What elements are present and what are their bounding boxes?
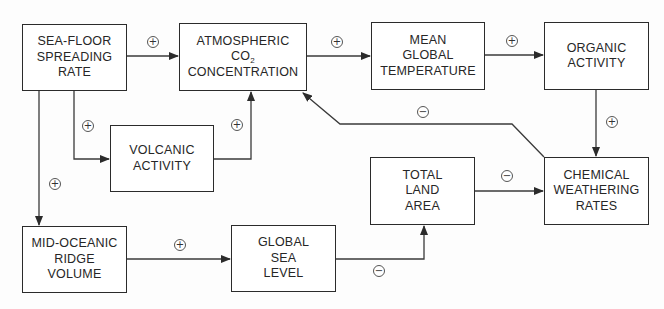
sign-temperature-organic: + [506, 35, 518, 47]
sign-seafloor-co2: + [147, 36, 159, 48]
node-atmospheric-co2-concentration: ATMOSPHERIC CO2 CONCENTRATION [179, 23, 307, 91]
node-label: TOTAL [402, 168, 442, 184]
node-label: LAND [405, 183, 439, 199]
sign-volcanic-co2: + [231, 119, 243, 131]
node-total-land-area: TOTAL LAND AREA [370, 157, 475, 225]
node-label: RIDGE [54, 252, 95, 268]
node-label: VOLCANIC [129, 143, 195, 159]
sign-land-weathering: − [501, 170, 513, 182]
node-label-co2: CO2 [231, 49, 255, 65]
sign-seafloor-ridge: + [49, 178, 61, 190]
sign-ridge-sealevel: + [174, 239, 186, 251]
node-mean-global-temperature: MEAN GLOBAL TEMPERATURE [371, 22, 485, 90]
node-label: SPREADING [37, 50, 112, 66]
sign-co2-temperature: + [331, 36, 343, 48]
node-label: MEAN [410, 33, 447, 49]
node-label: GLOBAL [402, 48, 453, 64]
sign-weathering-co2: − [417, 106, 429, 118]
node-label: ORGANIC [567, 41, 627, 57]
node-label: GLOBAL [258, 235, 309, 251]
sign-sealevel-land: − [373, 265, 385, 277]
node-label: ACTIVITY [568, 56, 626, 72]
node-label: ATMOSPHERIC [197, 34, 290, 50]
node-label: SEA-FLOOR [37, 34, 111, 50]
node-label: AREA [405, 199, 440, 215]
node-chemical-weathering-rates: CHEMICAL WEATHERING RATES [544, 157, 649, 225]
arrow-weathering-to-co2 [303, 93, 544, 157]
node-label: RATES [576, 199, 618, 215]
node-label: TEMPERATURE [380, 64, 476, 80]
arrow-sealevel-to-land [336, 226, 424, 259]
feedback-diagram: SEA-FLOOR SPREADING RATE ATMOSPHERIC CO2… [0, 0, 664, 309]
node-label: MID-OCEANIC [31, 236, 117, 252]
node-label: CHEMICAL [563, 168, 629, 184]
sign-organic-weathering: + [606, 116, 618, 128]
node-global-sea-level: GLOBAL SEA LEVEL [231, 225, 336, 292]
node-label: LEVEL [264, 266, 304, 282]
node-label: VOLUME [48, 267, 102, 283]
node-label: ACTIVITY [133, 159, 191, 175]
node-mid-oceanic-ridge-volume: MID-OCEANIC RIDGE VOLUME [22, 226, 127, 293]
co-text: CO [231, 49, 250, 63]
node-sea-floor-spreading-rate: SEA-FLOOR SPREADING RATE [22, 24, 127, 91]
node-label: WEATHERING [554, 183, 640, 199]
node-label: SEA [271, 251, 297, 267]
node-label: RATE [58, 65, 91, 81]
node-organic-activity: ORGANIC ACTIVITY [544, 22, 649, 90]
node-volcanic-activity: VOLCANIC ACTIVITY [110, 125, 214, 192]
sign-seafloor-volcanic: + [82, 120, 94, 132]
node-label: CONCENTRATION [188, 65, 299, 81]
